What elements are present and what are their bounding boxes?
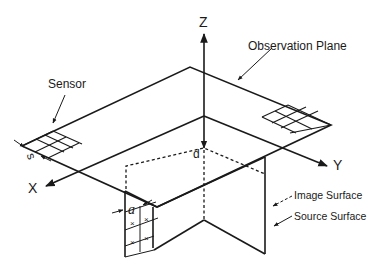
sensor-pointer [53, 95, 65, 123]
coordinate-axes [46, 34, 327, 186]
diagram-canvas: × × × × Z X Y Observation Plane Sensor s… [0, 0, 380, 268]
annotation-arrows [14, 48, 292, 226]
source-marker: × [144, 215, 149, 224]
a-left-tick [112, 210, 123, 213]
observation-plane-label: Observation Plane [248, 39, 347, 53]
source-surface-pointer [274, 216, 292, 226]
source-marker: × [130, 219, 135, 228]
source-pixel-label: a [128, 202, 135, 217]
source-surface-label: Source Surface [294, 210, 367, 222]
sensor-label: Sensor [48, 77, 86, 91]
source-marker: × [144, 234, 149, 243]
image-surface-label: Image Surface [294, 189, 362, 201]
s-left-tick [14, 140, 24, 147]
x-axis-label: X [28, 180, 38, 196]
sensor-grid-right [262, 105, 331, 133]
distance-label: d [193, 147, 200, 161]
y-axis-label: Y [333, 157, 343, 173]
sensor-spacing-label: s [24, 151, 39, 161]
source-marker: × [130, 238, 135, 247]
x-axis [46, 116, 204, 186]
z-axis-label: Z [199, 14, 208, 30]
image-surface-pointer [273, 196, 292, 206]
